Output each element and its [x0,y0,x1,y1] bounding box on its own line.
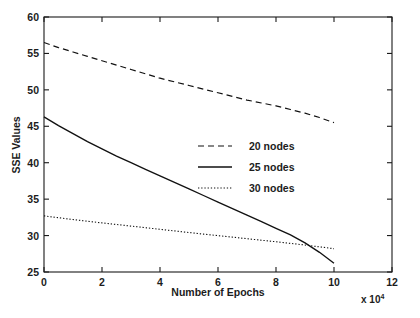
legend-label-1: 25 nodes [249,161,295,173]
y-tick-label: 50 [27,84,39,96]
legend-label-0: 20 nodes [249,140,295,152]
y-tick-label: 45 [27,120,39,132]
x-axis-title: Number of Epochs [171,286,265,298]
y-axis-title: SSE Values [10,116,22,173]
sse-vs-epochs-line-chart: 2530354045505560 024681012 SSE Values Nu… [0,0,420,318]
x-tick-label: 4 [157,276,163,288]
x-tick-label: 2 [99,276,105,288]
y-tick-label: 25 [27,266,39,278]
x-axis-multiplier-exponent: 4 [380,293,384,300]
y-tick-label: 40 [27,157,39,169]
x-axis-multiplier-base: x 10 [361,294,381,305]
x-tick-label: 12 [386,276,398,288]
y-tick-label: 30 [27,230,39,242]
chart-figure: 2530354045505560 024681012 SSE Values Nu… [0,0,420,318]
figure-background [0,0,420,318]
y-tick-label: 35 [27,193,39,205]
x-tick-label: 8 [273,276,279,288]
x-tick-label: 10 [328,276,340,288]
y-tick-label: 60 [27,11,39,23]
x-tick-label: 0 [41,276,47,288]
y-tick-label: 55 [27,47,39,59]
legend-label-2: 30 nodes [249,182,295,194]
